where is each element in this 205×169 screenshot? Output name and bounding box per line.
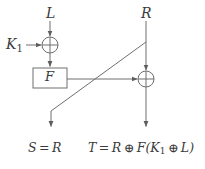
label-key: K1 (6, 37, 23, 54)
eq-left-equals: = (39, 140, 49, 155)
xor-right-gate (138, 71, 154, 87)
eq-left-rhs: R (52, 140, 61, 155)
eq-right-xor-2: ⊕ (168, 140, 178, 155)
label-key-subscript: 1 (16, 43, 22, 54)
diagram-canvas: L R K1 F S = R T = R ⊕ F(K1 ⊕ L) (0, 0, 205, 169)
eq-right-term1: R (112, 140, 121, 155)
label-input-left: L (46, 6, 55, 20)
eq-right-function: F( (137, 140, 151, 155)
eq-right-close-paren: ) (189, 140, 194, 155)
label-input-right: R (141, 6, 152, 20)
eq-right-term2: L (181, 140, 189, 155)
eq-right-equals: = (99, 140, 109, 155)
eq-right-xor-1: ⊕ (124, 140, 134, 155)
output-equation-left: S = R (28, 142, 61, 155)
edge-R-crossover-to-S (51, 42, 146, 127)
label-function-box: F (45, 70, 54, 83)
eq-right-key-letter: K (150, 140, 159, 155)
output-equation-right: T = R ⊕ F(K1 ⊕ L) (88, 142, 194, 156)
xor-left-gate (42, 37, 58, 53)
eq-left-lhs: S (28, 140, 37, 155)
label-key-letter: K (6, 36, 16, 52)
